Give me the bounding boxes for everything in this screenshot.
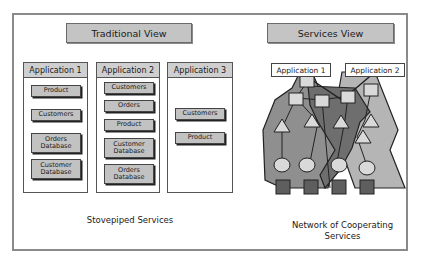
network-of-cooperating-services-caption: Network of Cooperating Services (270, 220, 415, 242)
data-store-square (360, 180, 374, 194)
data-circle (299, 158, 315, 172)
component-square (289, 93, 303, 105)
services-application-1-label: Application 1 (271, 63, 331, 77)
data-store-square (276, 180, 290, 194)
data-circle (359, 161, 375, 175)
component-square (341, 91, 355, 103)
data-store-square (304, 180, 318, 194)
component-square (315, 95, 329, 107)
data-circle (331, 158, 347, 172)
data-circle (274, 158, 290, 172)
component-square (364, 84, 378, 96)
services-application-2-label: Application 2 (345, 63, 405, 77)
data-store-square (332, 180, 346, 194)
